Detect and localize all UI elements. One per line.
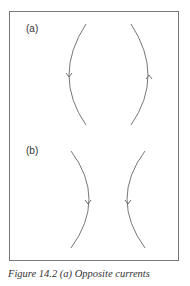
- field-lines-diagram: [0, 0, 190, 286]
- arrow-down-icon: [85, 200, 91, 204]
- arrow-up-icon: [146, 75, 152, 79]
- panel-a-right-curve: [131, 24, 148, 125]
- figure-caption: Figure 14.2 (a) Opposite currents: [8, 268, 150, 279]
- panel-b-right-curve: [127, 151, 145, 248]
- arrow-down-icon: [125, 200, 131, 204]
- panel-b-left-curve: [71, 151, 89, 248]
- panel-a-left-curve: [69, 24, 86, 125]
